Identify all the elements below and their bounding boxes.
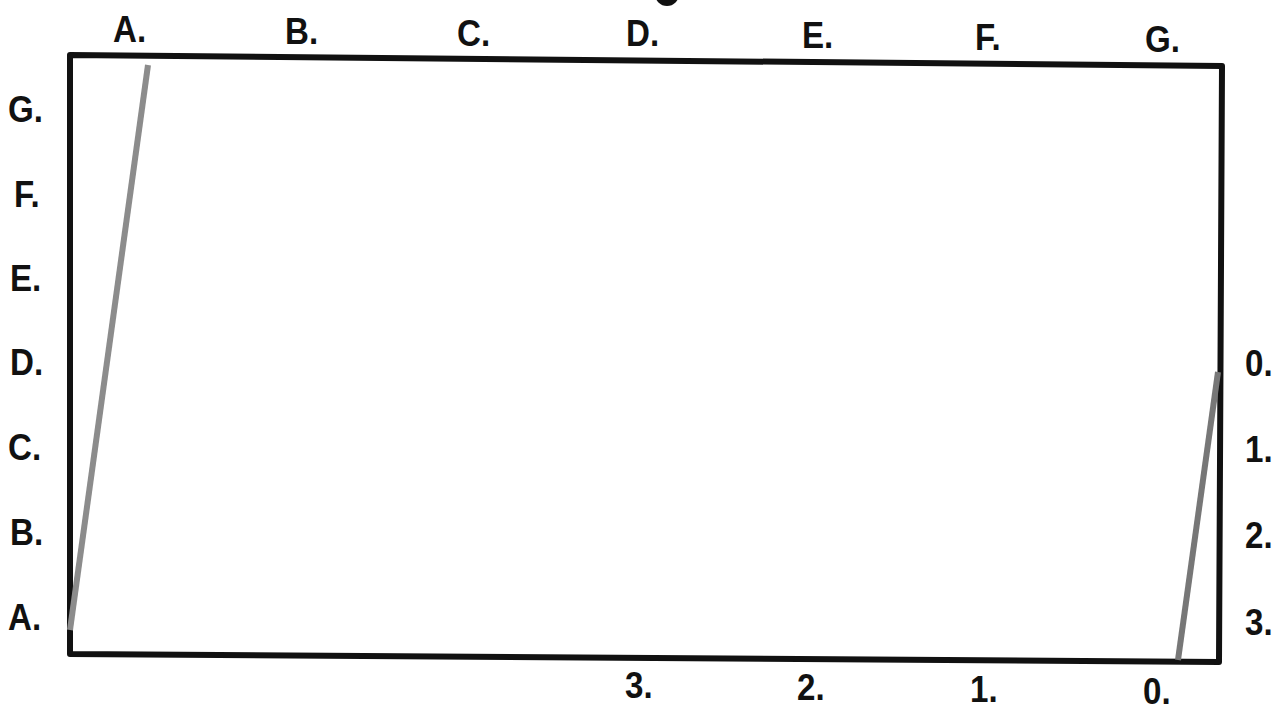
bottom-label-2: 2. <box>797 670 825 706</box>
left-label-f: F. <box>14 177 40 213</box>
left-label-c: C. <box>8 430 41 466</box>
top-label-c: C. <box>457 16 490 52</box>
diagram-canvas <box>0 0 1288 706</box>
left-label-g: G. <box>8 92 43 128</box>
right-label-0: 0. <box>1245 346 1273 382</box>
top-label-d: D. <box>626 16 659 52</box>
bottom-label-3: 3. <box>625 668 653 704</box>
top-label-f: F. <box>975 20 1001 56</box>
right-label-1: 1. <box>1245 432 1273 468</box>
right-label-2: 2. <box>1245 518 1273 554</box>
rectangle-frame <box>70 55 1222 662</box>
left-label-b: B. <box>10 515 43 551</box>
left-label-e: E. <box>10 261 41 297</box>
left-label-a: A. <box>8 600 41 636</box>
bottom-label-1: 1. <box>970 672 998 706</box>
bottom-label-0: 0. <box>1143 674 1171 706</box>
top-label-a: A. <box>113 12 146 48</box>
right-gray-line <box>1178 372 1218 660</box>
top-label-e: E. <box>802 18 833 54</box>
top-label-b: B. <box>285 14 318 50</box>
top-label-g: G. <box>1145 22 1180 58</box>
left-label-d: D. <box>10 345 43 381</box>
right-label-3: 3. <box>1245 605 1273 641</box>
left-gray-line <box>70 65 148 630</box>
